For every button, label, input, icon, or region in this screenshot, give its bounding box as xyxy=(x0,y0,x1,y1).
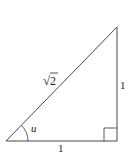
right-triangle xyxy=(6,27,117,141)
horizontal-side-label: 1 xyxy=(58,142,64,152)
angle-arc xyxy=(22,126,29,142)
right-angle-marker xyxy=(104,128,117,141)
hypotenuse-label: √ 2 xyxy=(43,73,58,88)
triangle-diagram: √ 2 1 1 u xyxy=(0,0,131,152)
hypotenuse-value: 2 xyxy=(50,74,56,88)
angle-label: u xyxy=(31,122,37,134)
vertical-side-label: 1 xyxy=(120,79,126,91)
